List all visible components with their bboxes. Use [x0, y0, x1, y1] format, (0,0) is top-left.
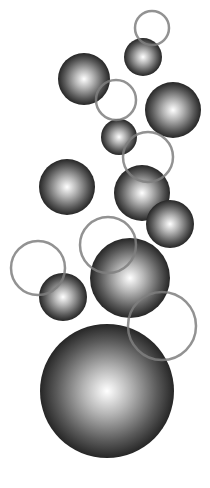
sphere-bubble: [58, 53, 110, 105]
bubbles-illustration: [0, 0, 210, 488]
ring-bubble: [128, 292, 196, 360]
ring-bubble: [96, 80, 136, 120]
ring-bubble: [11, 241, 65, 295]
sphere-bubble: [90, 238, 170, 318]
sphere-bubble: [40, 324, 174, 458]
sphere-bubble: [39, 159, 95, 215]
spheres-layer: [39, 38, 201, 458]
ring-bubble: [135, 11, 169, 45]
sphere-bubble: [145, 82, 201, 138]
sphere-bubble: [146, 200, 194, 248]
